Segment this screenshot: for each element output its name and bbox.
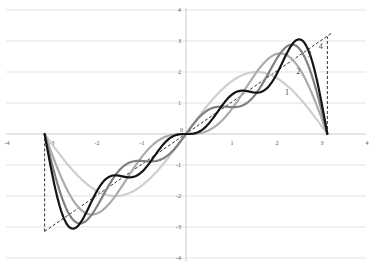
x-tick-label: -4: [5, 140, 10, 146]
series-label: 4: [319, 42, 323, 51]
y-tick-label: -2: [176, 193, 181, 199]
y-tick-label: 4: [178, 7, 181, 13]
y-tick-label: 1: [178, 100, 181, 106]
plot-area: -4-3-2-11234-4-3-2-112340 1234: [0, 0, 376, 270]
series-label: 2: [296, 67, 300, 76]
series-label: 3: [308, 50, 312, 59]
y-tick-label: 3: [178, 38, 181, 44]
x-tick-label: 4: [366, 140, 369, 146]
chart: -4-3-2-11234-4-3-2-112340 1234: [0, 0, 376, 270]
y-tick-label: -4: [176, 255, 181, 261]
x-tick-label: 3: [321, 140, 324, 146]
y-tick-label: 2: [178, 69, 181, 75]
x-tick-label: 2: [276, 140, 279, 146]
y-tick-label: -3: [176, 224, 181, 230]
x-tick-label: -1: [140, 140, 145, 146]
x-tick-label: -2: [95, 140, 100, 146]
y-tick-label: -1: [176, 162, 181, 168]
x-tick-label: 1: [231, 140, 234, 146]
series-label: 1: [285, 88, 289, 97]
origin-label: 0: [180, 127, 183, 133]
